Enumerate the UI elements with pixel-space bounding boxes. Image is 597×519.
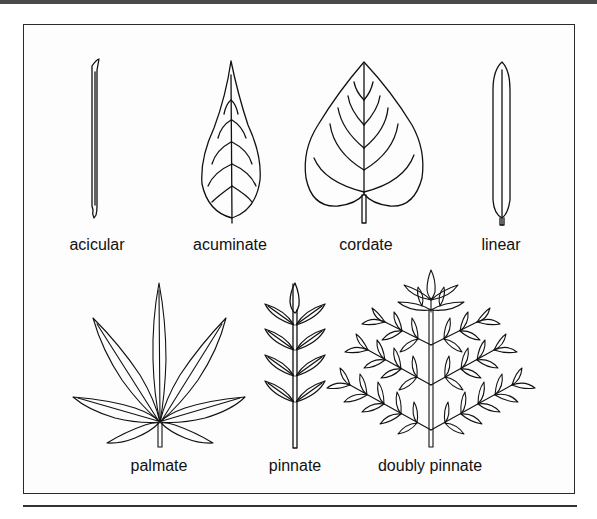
label-acuminate: acuminate xyxy=(193,236,267,254)
pinnate-leaf-icon xyxy=(265,283,325,448)
acuminate-leaf-icon xyxy=(202,61,261,223)
label-pinnate: pinnate xyxy=(269,457,322,475)
acicular-leaf-icon xyxy=(92,59,99,218)
label-linear: linear xyxy=(481,236,520,254)
label-palmate: palmate xyxy=(131,457,188,475)
doubly-pinnate-leaf-icon xyxy=(327,270,535,447)
label-cordate: cordate xyxy=(339,236,392,254)
palmate-leaf-icon xyxy=(73,283,245,447)
cordate-leaf-icon xyxy=(305,62,423,223)
linear-leaf-icon xyxy=(493,62,510,225)
label-acicular: acicular xyxy=(69,236,124,254)
label-doubly-pinnate: doubly pinnate xyxy=(378,457,482,475)
